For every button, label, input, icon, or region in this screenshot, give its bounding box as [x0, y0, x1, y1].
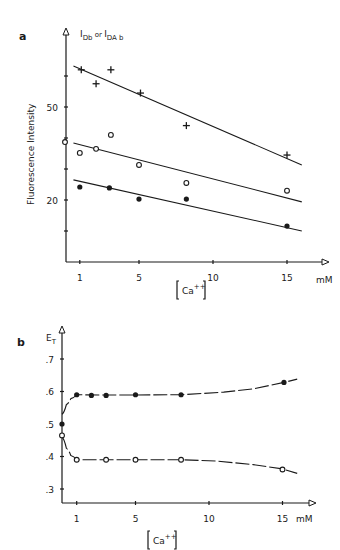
y-tick-label: .7 — [45, 355, 54, 365]
y-tick-label: .6 — [45, 387, 54, 397]
x-tick-label: 1 — [77, 273, 83, 283]
filled-circle-marker — [104, 393, 109, 398]
filled-circle-marker — [59, 421, 64, 426]
filled-circle-marker — [89, 393, 94, 398]
open-circle-marker — [77, 150, 82, 155]
svg-text:Ca++: Ca++ — [182, 283, 206, 296]
open-circle-marker — [63, 140, 68, 145]
open-circle-fit-line — [73, 143, 301, 202]
filled-circle-marker — [281, 380, 286, 385]
x-axis-arrow-icon — [309, 500, 316, 506]
x-tick-label: 5 — [133, 514, 139, 524]
filled-circle-marker — [284, 223, 289, 228]
y-axis-arrow-icon — [63, 28, 69, 35]
plus-fit-line — [73, 66, 301, 165]
x-axis-arrow-icon — [322, 259, 329, 265]
plus-marker — [183, 122, 190, 129]
open-circle-curve — [62, 437, 297, 473]
y-tick-label: 50 — [47, 103, 59, 113]
x-tick-label: 15 — [281, 273, 292, 283]
panel-a: a 1510152050 Fluorescence Intensity IDb … — [19, 28, 333, 299]
svg-text:IDb or IDA b: IDb or IDA b — [80, 29, 124, 42]
panel-a-label: a — [19, 30, 26, 43]
plus-marker — [93, 80, 100, 87]
plus-marker — [78, 66, 85, 73]
panel-b-x-axis-label: Ca++ — [148, 531, 177, 549]
open-circle-marker — [74, 457, 79, 462]
panel-a-y-axis-label: Fluorescence Intensity — [26, 103, 36, 205]
open-circle-marker — [280, 467, 285, 472]
y-tick-label: .5 — [45, 420, 54, 430]
panel-a-x-axis-label: Ca++ — [177, 281, 206, 299]
plus-marker — [107, 66, 114, 73]
panel-b-label: b — [17, 336, 25, 349]
panel-b-x-unit: mM — [296, 514, 313, 524]
open-circle-marker — [133, 457, 138, 462]
x-tick-label: 1 — [74, 514, 80, 524]
panel-a-x-unit: mM — [316, 275, 333, 285]
y-axis-arrow-icon — [59, 326, 65, 333]
panel-b-y-axis-label: ET — [46, 333, 57, 346]
svg-text:ET: ET — [46, 333, 57, 346]
filled-circle-marker — [184, 196, 189, 201]
open-circle-marker — [108, 133, 113, 138]
filled-circle-marker — [74, 392, 79, 397]
filled-circle-marker — [77, 184, 82, 189]
open-circle-marker — [285, 188, 290, 193]
open-circle-marker — [60, 433, 65, 438]
x-tick-label: 10 — [207, 273, 219, 283]
svg-text:Ca++: Ca++ — [153, 533, 177, 546]
panel-b-data-points — [59, 380, 286, 472]
figure: a 1510152050 Fluorescence Intensity IDb … — [0, 0, 340, 550]
panel-b-axes: 151015.3.4.5.6.7 — [45, 326, 316, 524]
y-tick-label: .3 — [45, 485, 54, 495]
open-circle-marker — [104, 457, 109, 462]
chart-canvas: a 1510152050 Fluorescence Intensity IDb … — [0, 0, 340, 550]
filled-circle-marker — [107, 185, 112, 190]
panel-a-data-points — [63, 66, 291, 228]
filled-circle-marker — [133, 392, 138, 397]
y-tick-label: .4 — [45, 452, 54, 462]
open-circle-marker — [137, 163, 142, 168]
filled-circle-marker — [136, 196, 141, 201]
open-circle-marker — [179, 457, 184, 462]
x-tick-label: 10 — [203, 514, 215, 524]
x-tick-label: 15 — [277, 514, 288, 524]
panel-a-y-axis-top-label: IDb or IDA b — [80, 29, 124, 42]
y-tick-label: 20 — [47, 196, 59, 206]
open-circle-marker — [94, 146, 99, 151]
open-circle-marker — [184, 181, 189, 186]
panel-b: b 151015.3.4.5.6.7 ET mM Ca++ — [17, 326, 316, 549]
panel-a-fit-lines — [73, 66, 301, 231]
x-tick-label: 5 — [136, 273, 142, 283]
plus-marker — [137, 90, 144, 97]
filled-circle-marker — [178, 392, 183, 397]
